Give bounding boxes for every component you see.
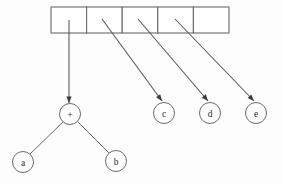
arrow-head-icon — [156, 94, 162, 101]
node-e-label: e — [254, 109, 258, 119]
node-plus-label: + — [67, 109, 73, 120]
node-b-label: b — [114, 157, 119, 167]
tree-edge-left — [30, 122, 63, 154]
node-c-label: c — [162, 109, 166, 119]
tree-edges — [30, 121, 109, 154]
arrow-head-icon — [66, 97, 71, 104]
pointer-array — [51, 7, 229, 33]
node-b[interactable]: b — [106, 151, 127, 172]
array-cell-2[interactable] — [122, 7, 158, 33]
array-cell-1[interactable] — [87, 7, 123, 33]
node-a[interactable]: a — [13, 152, 34, 173]
node-d-label: d — [208, 109, 213, 119]
tree-edge-right — [77, 121, 109, 153]
array-cell-4[interactable] — [193, 7, 229, 33]
tree-nodes: + a b c d e — [13, 103, 267, 173]
diagram-root: + a b c d e — [0, 0, 283, 184]
diagram-canvas: + a b c d e — [0, 0, 283, 184]
node-plus[interactable]: + — [60, 104, 81, 125]
node-c[interactable]: c — [154, 103, 175, 124]
node-d[interactable]: d — [200, 103, 221, 124]
node-e[interactable]: e — [246, 103, 267, 124]
